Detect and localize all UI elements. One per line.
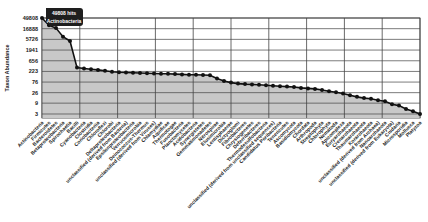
data-point[interactable] <box>327 89 331 93</box>
data-point[interactable] <box>222 79 226 83</box>
tooltip-label: Actinobacteria <box>47 18 82 24</box>
data-point[interactable] <box>313 87 317 91</box>
data-point[interactable] <box>397 104 401 108</box>
data-point[interactable] <box>54 26 58 30</box>
data-point[interactable] <box>208 73 212 77</box>
data-point[interactable] <box>103 69 107 73</box>
data-point[interactable] <box>390 102 394 106</box>
data-point[interactable] <box>229 81 233 85</box>
data-point[interactable] <box>215 76 219 80</box>
data-point[interactable] <box>369 97 373 101</box>
data-point[interactable] <box>341 91 345 95</box>
y-axis-label: Taxon Abundance <box>4 44 10 91</box>
data-point[interactable] <box>383 99 387 103</box>
y-axis-ticks: 392676223656194157261688849808 <box>23 15 38 117</box>
data-point[interactable] <box>61 35 65 39</box>
y-tick-label: 26 <box>32 90 38 96</box>
data-point[interactable] <box>124 71 128 75</box>
y-tick-label: 49808 <box>23 15 38 21</box>
y-tick-label: 16888 <box>23 26 38 32</box>
data-point[interactable] <box>138 71 142 75</box>
y-tick-label: 5726 <box>26 36 38 42</box>
data-point[interactable] <box>404 107 408 111</box>
data-point[interactable] <box>180 72 184 76</box>
data-point[interactable] <box>89 67 93 71</box>
data-point[interactable] <box>299 86 303 90</box>
data-point[interactable] <box>96 68 100 72</box>
data-point[interactable] <box>320 88 324 92</box>
taxon-abundance-chart: 392676223656194157261688849808 Taxon Abu… <box>0 0 428 222</box>
data-point[interactable] <box>271 84 275 88</box>
data-point[interactable] <box>68 39 72 43</box>
data-point[interactable] <box>250 82 254 86</box>
data-point[interactable] <box>166 72 170 76</box>
tooltip-value: 49808 hits <box>52 10 76 16</box>
data-point[interactable] <box>82 67 86 71</box>
data-point[interactable] <box>236 82 240 86</box>
data-point[interactable] <box>145 71 149 75</box>
data-point[interactable] <box>194 73 198 77</box>
data-point[interactable] <box>257 83 261 87</box>
data-point[interactable] <box>173 72 177 76</box>
data-point[interactable] <box>187 73 191 77</box>
data-point[interactable] <box>152 72 156 76</box>
tooltip: 49808 hits Actinobacteria <box>46 8 83 26</box>
y-tick-label: 9 <box>35 100 38 106</box>
data-point[interactable] <box>159 72 163 76</box>
data-point[interactable] <box>278 84 282 88</box>
data-point[interactable] <box>264 83 268 87</box>
data-point[interactable] <box>117 70 121 74</box>
y-tick-label: 1941 <box>26 47 38 53</box>
data-point[interactable] <box>411 109 415 113</box>
data-point[interactable] <box>131 71 135 75</box>
data-point[interactable] <box>110 70 114 74</box>
data-point[interactable] <box>355 95 359 99</box>
y-tick-label: 223 <box>29 68 38 74</box>
y-tick-label: 3 <box>35 111 38 117</box>
y-tick-label: 656 <box>29 58 38 64</box>
data-point[interactable] <box>376 98 380 102</box>
data-point[interactable] <box>348 93 352 97</box>
data-point[interactable] <box>362 96 366 100</box>
data-point[interactable] <box>201 73 205 77</box>
y-tick-label: 76 <box>32 79 38 85</box>
data-point[interactable] <box>243 82 247 86</box>
data-point[interactable] <box>418 112 422 116</box>
data-point[interactable] <box>75 66 79 70</box>
data-point[interactable] <box>285 85 289 89</box>
data-point[interactable] <box>292 85 296 89</box>
data-point[interactable] <box>306 86 310 90</box>
data-point[interactable] <box>334 90 338 94</box>
data-point[interactable] <box>40 16 44 20</box>
x-axis-ticks: ActinobacteriaFirmicutesBacteroidetesBet… <box>16 119 423 210</box>
